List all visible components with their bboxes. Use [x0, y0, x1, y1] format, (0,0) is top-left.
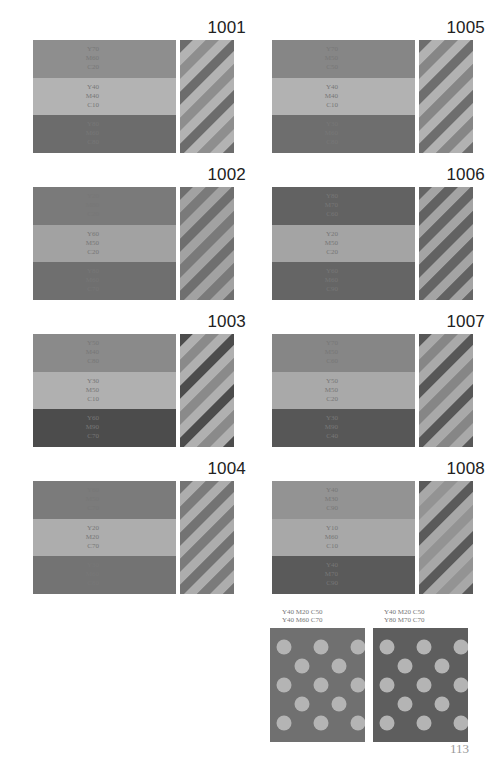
dot — [314, 716, 329, 731]
band-label: Y50M40C80 — [69, 339, 99, 366]
band-label: Y50M50C20 — [308, 377, 338, 404]
diagonal-stripe-sample — [419, 40, 473, 153]
swatch-id: 1004 — [207, 459, 246, 479]
color-bands — [272, 187, 415, 300]
color-band — [272, 334, 415, 372]
swatch-card-1007: 1007 Y70M50C60 Y50M50C20 Y30M90C40 — [245, 312, 485, 462]
diagonal-stripe-sample — [180, 187, 234, 300]
diagonal-stripe-sample — [419, 187, 473, 300]
swatch-id: 1005 — [446, 18, 485, 38]
dot — [351, 640, 366, 655]
color-bands — [33, 187, 176, 300]
color-band — [272, 40, 415, 78]
color-band — [33, 409, 176, 447]
dot — [454, 640, 469, 655]
dot — [380, 678, 395, 693]
dot — [277, 678, 292, 693]
swatch-id: 1002 — [207, 165, 246, 185]
color-band — [33, 372, 176, 410]
color-band — [33, 262, 176, 300]
band-label: Y20M20C70 — [69, 524, 99, 551]
band-label: Y40M40C10 — [69, 83, 99, 110]
color-band — [272, 225, 415, 263]
color-band — [272, 187, 415, 225]
swatch-card-1002: 1002 Y20M80C20 Y60M50C20 Y80M60C70 — [6, 165, 246, 315]
band-label: Y30M60C80 — [69, 561, 99, 588]
band-label: Y40M30C90 — [308, 486, 338, 513]
dot — [380, 716, 395, 731]
color-band — [272, 556, 415, 594]
band-label: Y80M70C60 — [308, 192, 338, 219]
color-band — [272, 409, 415, 447]
swatch-id: 1001 — [207, 18, 246, 38]
band-label: Y60M90C70 — [69, 414, 99, 441]
color-band — [33, 225, 176, 263]
color-band — [33, 187, 176, 225]
polka-dot-sample — [373, 628, 468, 742]
band-label: Y70M60C20 — [69, 45, 99, 72]
diagonal-stripe-sample — [180, 40, 234, 153]
diagonal-stripe-sample — [180, 481, 234, 594]
color-bands — [272, 40, 415, 153]
band-label: Y40M40C10 — [308, 83, 338, 110]
band-label: Y80M60C70 — [69, 267, 99, 294]
dot — [332, 659, 347, 674]
diagonal-stripe-sample — [419, 334, 473, 447]
diagonal-stripe-sample — [180, 334, 234, 447]
band-label: Y60M50C70 — [69, 486, 99, 513]
color-bands — [33, 481, 176, 594]
swatch-card-1006: 1006 Y80M70C60 Y20M50C20 Y60M60C90 — [245, 165, 485, 315]
band-label: Y60M50C20 — [69, 230, 99, 257]
polka-dot-sample — [270, 628, 365, 742]
color-band — [33, 334, 176, 372]
color-band — [33, 519, 176, 557]
color-band — [33, 40, 176, 78]
swatch-id: 1007 — [446, 312, 485, 332]
dot — [435, 697, 450, 712]
dot — [398, 659, 413, 674]
dot — [454, 716, 469, 731]
color-band — [272, 481, 415, 519]
dot — [295, 697, 310, 712]
dot — [314, 678, 329, 693]
dot — [277, 716, 292, 731]
dot — [454, 678, 469, 693]
dot — [332, 697, 347, 712]
dot — [351, 678, 366, 693]
color-bands — [33, 40, 176, 153]
swatch-card-1001: 1001 Y70M60C20 Y40M40C10 Y80M60C80 — [6, 18, 246, 168]
band-label: Y70M50C60 — [308, 339, 338, 366]
color-band — [272, 262, 415, 300]
band-label: Y20M50C20 — [308, 230, 338, 257]
band-label: Y20M80C20 — [69, 192, 99, 219]
color-band — [272, 78, 415, 116]
band-label: Y10M60C10 — [308, 524, 338, 551]
band-label: Y30M60C80 — [308, 120, 338, 147]
dot — [417, 716, 432, 731]
dot — [351, 716, 366, 731]
color-band — [272, 115, 415, 153]
band-label: Y60M60C90 — [308, 267, 338, 294]
band-label: Y70M50C50 — [308, 45, 338, 72]
dot — [295, 659, 310, 674]
swatch-id: 1008 — [446, 459, 485, 479]
band-label: Y30M50C10 — [69, 377, 99, 404]
color-bands — [33, 334, 176, 447]
swatch-id: 1006 — [446, 165, 485, 185]
color-bands — [272, 334, 415, 447]
dot-panel-label: Y40 M20 C50 Y40 M60 C70 — [282, 608, 322, 624]
color-band — [272, 372, 415, 410]
color-band — [272, 519, 415, 557]
color-band — [33, 556, 176, 594]
dot — [435, 659, 450, 674]
dot — [417, 678, 432, 693]
swatch-id: 1003 — [207, 312, 246, 332]
dot — [380, 640, 395, 655]
page-number: 113 — [450, 741, 469, 757]
dot — [314, 640, 329, 655]
dot-panel-label: Y40 M20 C50 Y80 M70 C70 — [384, 608, 424, 624]
band-label: Y40M70C90 — [308, 561, 338, 588]
dot — [398, 697, 413, 712]
color-band — [33, 78, 176, 116]
diagonal-stripe-sample — [419, 481, 473, 594]
